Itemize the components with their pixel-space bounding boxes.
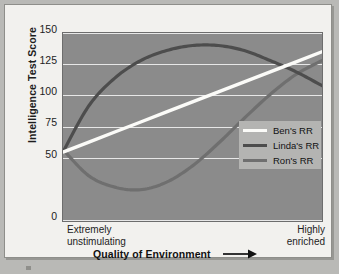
x-axis-title-row: Quality of Environment [93,248,257,260]
y-tick-0: 0 [11,211,57,221]
y-axis-title: Intelligence Test Score [26,0,38,170]
plot-area: Ben's RR Linda's RR Ron's RR [62,32,323,222]
legend-swatch-rons-rr [243,159,267,162]
figure-root: 150 125 100 75 50 0 Intelligence Test Sc… [0,0,339,274]
x-axis-label-left-line1: Extremely [67,224,111,235]
legend-label-rons-rr: Ron's RR [273,155,313,166]
legend: Ben's RR Linda's RR Ron's RR [239,121,321,169]
legend-label-bens-rr: Ben's RR [273,125,313,136]
x-axis-label-right: Highlyenriched [263,224,325,247]
legend-label-lindas-rr: Linda's RR [273,140,319,151]
legend-item-bens-rr[interactable]: Ben's RR [239,123,316,138]
x-axis-title: Quality of Environment [93,248,211,260]
x-axis-label-left: Extremelyunstimulating [67,224,126,247]
legend-swatch-lindas-rr [243,144,267,147]
legend-swatch-bens-rr [243,129,267,132]
legend-item-rons-rr[interactable]: Ron's RR [239,153,316,168]
legend-item-lindas-rr[interactable]: Linda's RR [239,138,316,153]
x-axis-label-right-line1: Highly [297,224,325,235]
x-axis-label-left-line2: unstimulating [67,236,126,247]
right-arrow-icon [223,249,257,259]
x-axis-label-right-line2: enriched [287,236,325,247]
corner-registration-mark [26,266,31,270]
chart-paper-frame: 150 125 100 75 50 0 Intelligence Test Sc… [4,4,332,258]
